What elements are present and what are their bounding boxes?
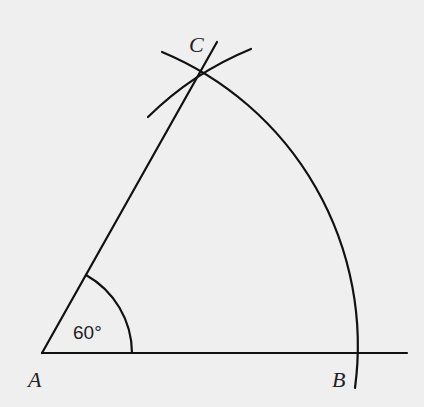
arc-center-a	[162, 52, 358, 388]
ray-ac	[42, 42, 217, 353]
label-c: C	[189, 32, 204, 57]
label-a: A	[26, 367, 42, 392]
angle-label: 60°	[73, 322, 102, 343]
arc-center-b	[148, 49, 251, 117]
label-b: B	[332, 367, 345, 392]
geometry-diagram: A B C 60°	[0, 0, 424, 407]
